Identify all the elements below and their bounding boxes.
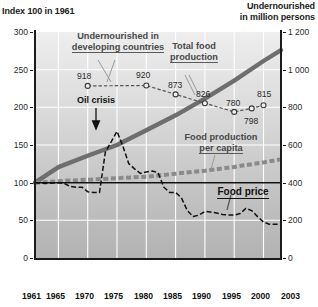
bottom-axis-line [34, 258, 282, 260]
per-capita-leader-line [211, 155, 215, 169]
x-tick-label-1975: 1975 [104, 291, 123, 301]
x-tick-label-1980: 1980 [134, 291, 153, 301]
left-tick-label-200: 200 [0, 102, 28, 112]
data-label-920: 920 [136, 70, 150, 80]
annotation-undernourished-line2: developing countries [72, 42, 164, 54]
annotation-food-price-text: Food price [217, 187, 268, 199]
left-tick-0 [30, 258, 33, 259]
left-tick-label-0: 0 [0, 253, 28, 263]
left-tick-100 [30, 183, 33, 184]
left-axis-title: Index 100 in 1961 [2, 6, 74, 17]
annotation-total-food-line2: production [170, 52, 218, 64]
annotation-undernourished-line1: Undernourished in [77, 31, 159, 41]
x-tick-label-1985: 1985 [163, 291, 182, 301]
x-tick-label-1990: 1990 [192, 291, 211, 301]
right-tick-label-0: 0 [288, 253, 293, 263]
annotation-total-food-line1: Total food [172, 41, 216, 51]
x-tick-label-1965: 1965 [46, 291, 65, 301]
left-tick-300 [30, 32, 33, 33]
data-label-873: 873 [168, 80, 182, 90]
oil-crisis-arrow [93, 108, 100, 129]
right-tick-800 [283, 107, 286, 108]
right-tick-label-1200: 1 200 [288, 27, 309, 37]
x-tick-label-1995: 1995 [222, 291, 241, 301]
left-axis-line [34, 30, 36, 260]
right-tick-600 [283, 145, 286, 146]
annotation-oil-crisis-text: Oil crisis [77, 95, 115, 105]
undernourished-leader-lines [98, 60, 115, 82]
right-tick-200 [283, 220, 286, 221]
annotation-oil-crisis: Oil crisis [65, 95, 127, 106]
x-tick-label-1970: 1970 [75, 291, 94, 301]
right-tick-label-600: 600 [288, 140, 302, 150]
left-tick-200 [30, 107, 33, 108]
annotation-food-price: Food price [198, 187, 288, 199]
right-tick-1000 [283, 70, 286, 71]
annotation-total-food-production: Total food production [157, 41, 231, 63]
x-tick-label-1961: 1961 [22, 291, 41, 301]
left-tick-label-150: 150 [0, 140, 28, 150]
annotation-food-production-per-capita: Food production per capita [168, 132, 274, 154]
right-tick-400 [283, 183, 286, 184]
left-tick-50 [30, 220, 33, 221]
right-axis-title-line1: Undernourished [240, 1, 315, 12]
data-label-780: 780 [226, 98, 240, 108]
annotation-per-capita-line2: per capita [199, 143, 242, 155]
left-tick-label-300: 300 [0, 27, 28, 37]
data-label-918: 918 [77, 71, 91, 81]
x-tick-label-2000: 2000 [251, 291, 270, 301]
right-tick-label-400: 400 [288, 178, 302, 188]
left-tick-label-100: 100 [0, 178, 28, 188]
left-tick-label-50: 50 [0, 215, 28, 225]
plot-area: Undernourished in developing countries T… [35, 32, 281, 258]
x-tick-label-2003: 2003 [281, 291, 300, 301]
annotation-per-capita-line1: Food production [185, 132, 258, 142]
left-tick-150 [30, 145, 33, 146]
right-tick-label-800: 800 [288, 102, 302, 112]
right-tick-label-1000: 1 000 [288, 65, 309, 75]
right-tick-label-200: 200 [288, 215, 302, 225]
data-label-815: 815 [257, 89, 271, 99]
right-axis-line [280, 30, 282, 260]
data-label-826: 826 [196, 89, 210, 99]
right-tick-1200 [283, 32, 286, 33]
right-axis-title: Undernourished in million persons [240, 1, 315, 22]
chart-figure: Index 100 in 1961 Undernourished in mill… [0, 0, 318, 307]
left-tick-label-250: 250 [0, 65, 28, 75]
left-tick-250 [30, 70, 33, 71]
right-axis-title-line2: in million persons [240, 12, 315, 23]
right-tick-0 [283, 258, 286, 259]
data-label-798: 798 [244, 116, 258, 126]
